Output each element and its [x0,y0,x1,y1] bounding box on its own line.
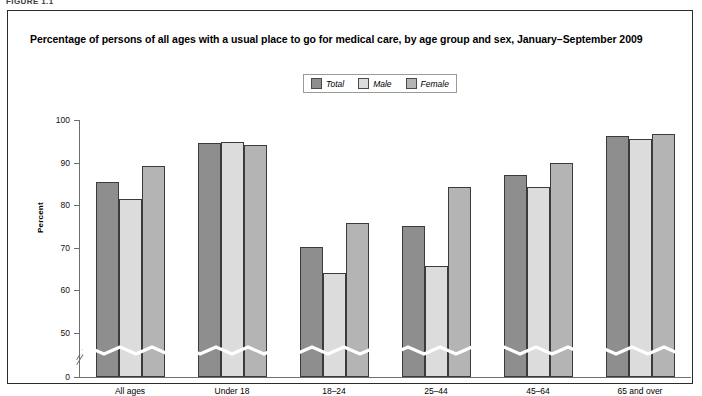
axis-break-icon [74,349,86,365]
legend-item-total[interactable]: Total [311,78,344,89]
x-tick-label: Under 18 [215,386,250,396]
bar-male-45-64[interactable] [527,187,550,377]
x-tick-label: All ages [115,386,145,396]
y-tick-label: 60 [61,285,70,295]
bar-female-45-64[interactable] [550,163,573,377]
y-tick-label: 80 [61,200,70,210]
bar-male-18-24[interactable] [323,273,346,377]
y-tick [74,205,79,206]
bar-total-under-18[interactable] [198,143,221,377]
y-tick-label: 100 [56,115,70,125]
x-tick-label: 45–64 [526,386,550,396]
legend-swatch-male [358,78,369,89]
bar-female-all-ages[interactable] [142,166,165,377]
bar-group [300,120,369,377]
y-tick [74,333,79,334]
y-tick-label: 0 [65,372,70,382]
y-tick [74,290,79,291]
legend-swatch-total [311,78,322,89]
bar-group [198,120,267,377]
bar-male-under-18[interactable] [221,142,244,377]
legend-item-male[interactable]: Male [358,78,391,89]
plot-area: 05060708090100 All agesUnder 1818–2425–4… [79,120,691,377]
legend-label-female: Female [421,79,449,89]
bar-group [504,120,573,377]
y-tick [74,248,79,249]
y-axis-line [79,120,80,377]
legend-swatch-female [406,78,417,89]
y-tick [74,120,79,121]
y-tick-label: 70 [61,243,70,253]
y-tick-label: 90 [61,158,70,168]
chart-legend: Total Male Female [303,74,457,93]
x-tick-label: 65 and over [618,386,663,396]
bar-male-25-44[interactable] [425,266,448,377]
y-tick [74,163,79,164]
chart-title: Percentage of persons of all ages with a… [30,33,643,45]
x-tick-label: 18–24 [322,386,346,396]
bar-male-all-ages[interactable] [119,199,142,377]
bar-group [402,120,471,377]
bar-group [96,120,165,377]
y-axis-label: Percent [36,202,45,233]
bar-female-18-24[interactable] [346,223,369,377]
y-tick [74,377,79,378]
x-axis-line [79,377,691,378]
x-tick-label: 25–44 [424,386,448,396]
bar-female-65-and-over[interactable] [652,134,675,377]
legend-label-male: Male [373,79,391,89]
bar-total-45-64[interactable] [504,175,527,377]
bar-total-65-and-over[interactable] [606,136,629,377]
figure-frame: Percentage of persons of all ages with a… [7,10,693,384]
bar-group [606,120,675,377]
legend-label-total: Total [326,79,344,89]
y-tick-label: 50 [61,328,70,338]
axis-break-zigzag [80,340,691,362]
bar-female-25-44[interactable] [448,187,471,377]
bar-male-65-and-over[interactable] [629,139,652,377]
bar-total-all-ages[interactable] [96,182,119,377]
bar-total-18-24[interactable] [300,247,323,377]
bar-total-25-44[interactable] [402,226,425,377]
bar-female-under-18[interactable] [244,145,267,377]
legend-item-female[interactable]: Female [406,78,449,89]
figure-label: FIGURE 1.1 [6,0,54,6]
